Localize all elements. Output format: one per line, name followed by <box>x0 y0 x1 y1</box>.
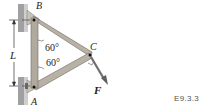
member-AC <box>33 53 92 90</box>
label-point-C: C <box>90 42 97 52</box>
angle-arc-lower <box>38 67 44 69</box>
angle-arc-upper <box>38 40 44 41</box>
label-dimension-L: L <box>10 50 16 61</box>
angle-label-upper: 60° <box>45 43 59 53</box>
truss-diagram: B A C L F 60° 60° <box>0 0 140 111</box>
angle-label-lower: 60° <box>46 58 60 68</box>
example-label: E9.3.3 <box>174 94 199 103</box>
label-force-F: F <box>94 85 101 96</box>
member-BC <box>33 16 92 57</box>
truss-drawing <box>0 0 140 111</box>
label-point-B: B <box>36 1 42 11</box>
member-AB <box>31 18 38 88</box>
pin-A <box>33 86 36 89</box>
pin-C <box>89 54 92 57</box>
pin-B <box>33 19 36 22</box>
label-point-A: A <box>31 97 37 107</box>
force-arrow-F <box>91 57 108 85</box>
